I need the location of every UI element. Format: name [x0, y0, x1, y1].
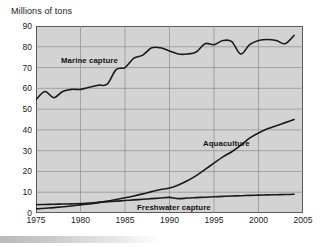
plot-svg	[36, 26, 303, 213]
gridlines	[36, 26, 303, 213]
x-tick-label: 2005	[294, 215, 313, 225]
chart-figure: Millions of tons 0102030405060708090 197…	[0, 0, 325, 247]
y-tick-label: 50	[23, 105, 32, 113]
y-axis: 0102030405060708090	[0, 0, 32, 247]
y-tick-label: 40	[23, 126, 32, 134]
x-tick-label: 1980	[71, 215, 90, 225]
y-tick-label: 80	[23, 43, 32, 51]
x-tick-label: 1990	[160, 215, 179, 225]
x-axis: 1975198019851990199520002005	[0, 215, 325, 229]
bottom-shadow-bar	[0, 236, 160, 243]
x-tick-label: 1985	[116, 215, 135, 225]
x-tick-label: 1995	[205, 215, 224, 225]
series-label-marine-capture: Marine capture	[61, 56, 118, 65]
y-tick-label: 70	[23, 64, 32, 72]
y-tick-label: 20	[23, 167, 32, 175]
y-tick-label: 60	[23, 84, 32, 92]
x-tick-label: 1975	[27, 215, 46, 225]
y-tick-label: 90	[23, 22, 32, 30]
series-label-aquaculture: Aquaculture	[203, 139, 250, 148]
series-label-freshwater-capture: Freshwater capture	[137, 203, 211, 212]
y-tick-label: 10	[23, 188, 32, 196]
y-tick-label: 30	[23, 147, 32, 155]
plot-wrapper	[36, 26, 303, 213]
x-tick-label: 2000	[249, 215, 268, 225]
